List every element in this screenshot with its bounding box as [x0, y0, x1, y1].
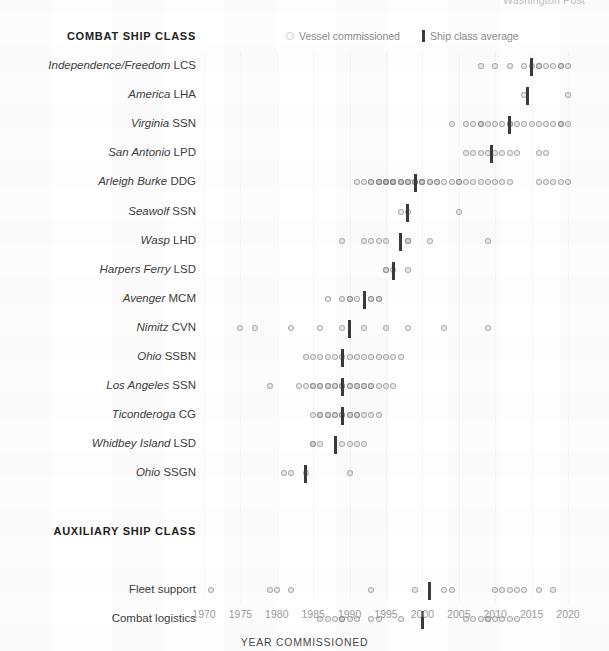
vessel-dot: [332, 354, 338, 360]
data-row: [190, 438, 590, 452]
vessel-dot: [499, 587, 505, 593]
data-row: [190, 60, 590, 74]
vessel-dot: [521, 587, 527, 593]
class-average-bar: [406, 204, 409, 222]
data-row: [190, 206, 590, 220]
vessel-dot: [376, 238, 382, 244]
vessel-dot: [339, 441, 345, 447]
legend-item-vessel: Vessel commissioned: [286, 30, 400, 42]
data-row: [190, 467, 590, 481]
row-label-independence-freedom-lcs: Independence/Freedom LCS: [48, 59, 196, 71]
row-label-ticonderoga-cg: Ticonderoga CG: [112, 408, 196, 420]
vessel-dot: [499, 150, 505, 156]
vessel-dot: [347, 470, 353, 476]
vessel-dot: [558, 63, 564, 69]
class-average-bar: [341, 407, 344, 425]
vessel-dot: [463, 179, 469, 185]
vessel-dot: [565, 92, 571, 98]
vessel-dot: [390, 179, 396, 185]
vessel-dot: [427, 238, 433, 244]
x-tick-2020: 2020: [556, 608, 579, 620]
legend: Vessel commissioned Ship class average: [286, 30, 519, 42]
row-label-ohio-ssbn: Ohio SSBN: [137, 350, 196, 362]
vessel-dot: [536, 63, 542, 69]
vessel-dot: [405, 238, 411, 244]
vessel-dot: [499, 179, 505, 185]
vessel-dot: [390, 383, 396, 389]
class-average-bar: [341, 349, 344, 367]
vertical-bar-icon: [422, 30, 425, 42]
data-row: [190, 235, 590, 249]
class-average-bar: [490, 145, 493, 163]
vessel-dot: [325, 296, 331, 302]
vessel-dot: [412, 587, 418, 593]
vessel-dot: [310, 383, 316, 389]
row-label-class-name: Harpers Ferry: [99, 263, 170, 275]
vessel-dot: [368, 354, 374, 360]
row-label-class-name: Virginia: [131, 117, 169, 129]
vessel-dot: [492, 121, 498, 127]
row-label-combat-logistics-combat-logistics: Combat logistics: [112, 612, 196, 624]
vessel-dot: [463, 150, 469, 156]
vessel-dot: [507, 150, 513, 156]
vessel-dot: [478, 150, 484, 156]
vessel-dot: [521, 63, 527, 69]
vessel-dot: [288, 587, 294, 593]
vessel-dot: [368, 587, 374, 593]
vessel-dot: [456, 209, 462, 215]
row-label-class-name: Los Angeles: [106, 379, 169, 391]
vessel-dot: [427, 179, 433, 185]
vessel-dot: [536, 121, 542, 127]
vessel-dot: [325, 354, 331, 360]
vessel-dot: [485, 238, 491, 244]
legend-item-average: Ship class average: [422, 30, 519, 42]
row-label-fleet-support-fleet-support: Fleet support: [129, 583, 196, 595]
row-label-class-name: San Antonio: [108, 146, 170, 158]
vessel-dot: [441, 179, 447, 185]
vessel-dot: [288, 325, 294, 331]
vessel-dot: [376, 179, 382, 185]
data-row: [190, 584, 590, 598]
vessel-dot: [317, 412, 323, 418]
x-tick-1985: 1985: [302, 608, 325, 620]
vessel-dot: [354, 441, 360, 447]
data-row: [190, 147, 590, 161]
vessel-dot: [317, 441, 323, 447]
vessel-dot: [274, 587, 280, 593]
row-label-class-name: Ohio: [136, 466, 160, 478]
class-average-bar: [334, 436, 337, 454]
vessel-dot: [405, 325, 411, 331]
row-label-wasp-lhd: Wasp LHD: [141, 234, 196, 246]
class-average-bar: [508, 116, 511, 134]
circle-outline-icon: [286, 32, 294, 40]
row-label-class-name: Ohio: [137, 350, 161, 362]
vessel-dot: [565, 63, 571, 69]
vessel-dot: [332, 383, 338, 389]
vessel-dot: [208, 587, 214, 593]
vessel-dot: [492, 63, 498, 69]
vessel-dot: [463, 121, 469, 127]
vessel-dot: [398, 209, 404, 215]
data-row: [190, 118, 590, 132]
vessel-dot: [347, 296, 353, 302]
x-tick-1990: 1990: [338, 608, 361, 620]
vessel-dot: [390, 354, 396, 360]
data-row: [190, 176, 590, 190]
vessel-dot: [361, 179, 367, 185]
vessel-dot: [558, 121, 564, 127]
vessel-dot: [398, 616, 404, 622]
vessel-dot: [405, 267, 411, 273]
data-row: [190, 293, 590, 307]
vessel-dot: [536, 150, 542, 156]
vessel-dot: [368, 412, 374, 418]
row-label-class-name: Avenger: [123, 292, 166, 304]
vessel-dot: [339, 238, 345, 244]
vessel-dot: [303, 354, 309, 360]
vessel-dot: [332, 412, 338, 418]
vessel-dot: [470, 616, 476, 622]
row-label-virginia-ssn: Virginia SSN: [131, 117, 196, 129]
vessel-dot: [383, 238, 389, 244]
vessel-dot: [478, 63, 484, 69]
data-row: [190, 264, 590, 278]
row-label-harpers-ferry-lsd: Harpers Ferry LSD: [99, 263, 196, 275]
